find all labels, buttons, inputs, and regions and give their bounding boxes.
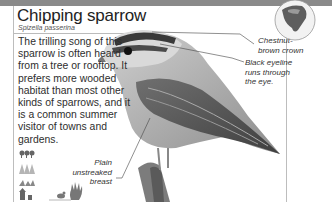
coniferous-forest-icon xyxy=(19,164,35,174)
ground-feeding-bird-icon xyxy=(49,192,71,201)
grassland-icon xyxy=(19,180,35,186)
callout-eyeline-line: Black eyeline xyxy=(245,58,292,68)
hand-feeding-icon xyxy=(70,182,82,200)
scientific-name: Spizella passerina xyxy=(18,24,75,31)
deciduous-forest-icon xyxy=(20,151,35,159)
town-icon xyxy=(19,188,32,200)
callout-crown-line: brown crown xyxy=(258,46,303,56)
species-description: The trilling song of this sparrow is oft… xyxy=(18,36,136,146)
habitat-icons xyxy=(19,150,119,202)
north-america-range-map-icon xyxy=(272,0,318,42)
callout-eyeline-line: the eye. xyxy=(245,77,292,87)
callout-eyeline-line: runs through xyxy=(245,68,292,78)
callout-eyeline: Black eyeline runs through the eye. xyxy=(245,58,292,87)
